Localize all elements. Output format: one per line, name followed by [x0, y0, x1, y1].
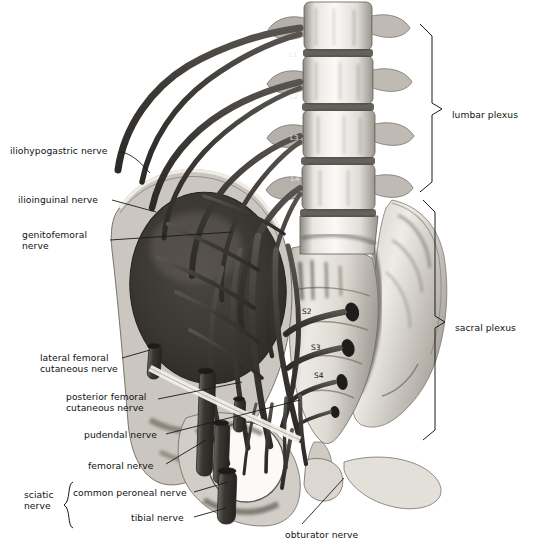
label-ilioinguinal-nerve: ilioinguinal nerve	[18, 194, 98, 205]
label-pudendal-nerve: pudendal nerve	[84, 429, 157, 440]
label-lumbar-plexus: lumbar plexus	[452, 109, 518, 120]
label-femoral-nerve: femoral nerve	[88, 460, 153, 471]
svg-text:L1: L1	[289, 51, 297, 59]
svg-text:L3: L3	[290, 134, 298, 142]
svg-text:S4: S4	[314, 371, 324, 380]
sciatic-nerve-brace	[63, 481, 75, 529]
figure-canvas: L1 L2 L3 L4 S2 S3 S4 iliohypogastric ner…	[0, 0, 538, 551]
label-sciatic-nerve: sciatic nerve	[24, 489, 54, 512]
label-genitofemoral-nerve: genitofemoral nerve	[22, 229, 87, 252]
label-sacral-plexus: sacral plexus	[455, 322, 516, 333]
label-lateral-femoral-cutaneous-nerve: lateral femoral cutaneous nerve	[40, 352, 118, 375]
label-iliohypogastric-nerve: iliohypogastric nerve	[10, 145, 108, 156]
lumbosacral-plexus-illustration: L1 L2 L3 L4 S2 S3 S4	[0, 0, 538, 551]
label-obturator-nerve: obturator nerve	[285, 529, 358, 540]
label-tibial-nerve: tibial nerve	[131, 512, 184, 523]
svg-text:L4: L4	[291, 175, 300, 183]
svg-text:L2: L2	[290, 93, 298, 101]
svg-text:S3: S3	[311, 343, 321, 352]
label-common-peroneal-nerve: common peroneal nerve	[73, 487, 187, 498]
svg-text:S2: S2	[302, 307, 312, 316]
label-posterior-femoral-cutaneous-nerve: posterior femoral cutaneous nerve	[66, 391, 146, 414]
stump-tibial	[217, 468, 237, 524]
